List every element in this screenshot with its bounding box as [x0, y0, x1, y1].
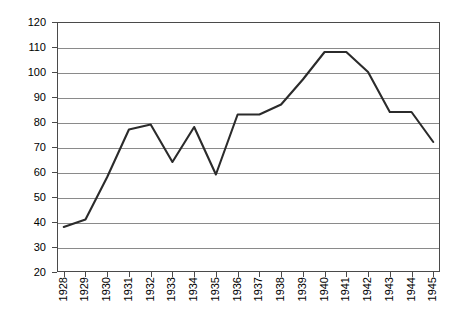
x-axis-tick-label: 1935 — [210, 277, 221, 301]
x-axis-tick-label: 1928 — [58, 277, 69, 301]
x-axis-tick — [412, 272, 413, 277]
x-axis-tick-label: 1940 — [319, 277, 330, 301]
x-axis-tick — [390, 272, 391, 277]
x-axis-tick — [325, 272, 326, 277]
x-axis-tick-label: 1943 — [384, 277, 395, 301]
x-axis-tick — [85, 272, 86, 277]
x-axis-tick — [194, 272, 195, 277]
x-axis-tick-label: 1929 — [79, 277, 90, 301]
x-axis-tick — [346, 272, 347, 277]
x-axis-tick — [216, 272, 217, 277]
x-axis-tick — [281, 272, 282, 277]
x-axis-tick — [151, 272, 152, 277]
x-axis-tick-label: 1932 — [145, 277, 156, 301]
x-axis-tick — [172, 272, 173, 277]
x-axis-tick — [368, 272, 369, 277]
x-axis-tick — [238, 272, 239, 277]
x-axis-tick-label: 1939 — [297, 277, 308, 301]
x-axis-tick-label: 1933 — [166, 277, 177, 301]
x-axis-tick-label: 1944 — [406, 277, 417, 301]
x-axis-tick — [64, 272, 65, 277]
x-axis-tick-label: 1945 — [427, 277, 438, 301]
x-axis-tick-label: 1938 — [275, 277, 286, 301]
x-axis-tick-label: 1941 — [340, 277, 351, 301]
x-axis-labels: 1928192919301931193219331934193519361937… — [0, 0, 452, 311]
x-axis-tick-label: 1930 — [101, 277, 112, 301]
x-axis-tick-label: 1931 — [123, 277, 134, 301]
x-axis-tick — [433, 272, 434, 277]
x-axis-tick — [303, 272, 304, 277]
line-chart: 2030405060708090100110120 19281929193019… — [0, 0, 452, 311]
x-axis-tick — [259, 272, 260, 277]
x-axis-tick-label: 1942 — [362, 277, 373, 301]
x-axis-tick-label: 1937 — [253, 277, 264, 301]
x-axis-tick — [129, 272, 130, 277]
x-axis-tick — [107, 272, 108, 277]
x-axis-tick-label: 1934 — [188, 277, 199, 301]
x-axis-tick-label: 1936 — [232, 277, 243, 301]
